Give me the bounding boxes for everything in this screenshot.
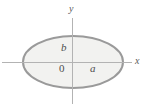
origin-label: 0 [59,63,65,74]
x-axis-label: x [135,56,139,66]
semi-major-axis-label: a [90,63,96,74]
figure-canvas [0,0,149,109]
ellipse-figure: y x b a 0 [0,0,149,109]
y-axis-label: y [69,4,73,14]
semi-minor-axis-label: b [61,42,67,53]
